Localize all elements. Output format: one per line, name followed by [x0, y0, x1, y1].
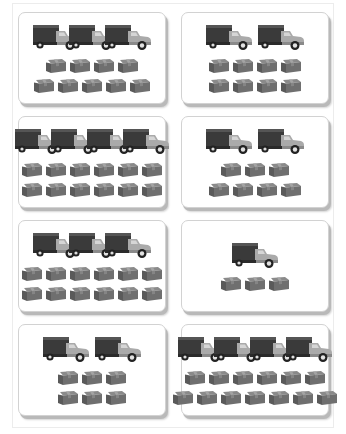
box-row: [207, 77, 303, 94]
box-icon: [232, 369, 254, 386]
box-icon: [232, 77, 254, 94]
box-icon: [105, 389, 127, 406]
box-icon: [81, 389, 103, 406]
box-icon: [45, 181, 67, 198]
box-icon: [184, 369, 206, 386]
card-3: [18, 116, 166, 208]
box-row: [171, 389, 339, 406]
box-icon: [208, 369, 230, 386]
box-icon: [117, 285, 139, 302]
card-5: [18, 220, 166, 312]
truck-group: [205, 127, 305, 155]
box-icon: [129, 77, 151, 94]
truck-group: [32, 23, 152, 51]
box-icon: [208, 181, 230, 198]
box-row: [207, 181, 303, 198]
card-2: [181, 12, 329, 104]
truck-icon: [205, 23, 253, 51]
box-icon: [232, 181, 254, 198]
box-icon: [117, 265, 139, 282]
box-icon: [69, 57, 91, 74]
truck-icon: [104, 23, 152, 51]
box-row: [44, 57, 140, 74]
box-icon: [57, 369, 79, 386]
card-8: [181, 324, 329, 416]
box-group: [20, 265, 164, 302]
box-row: [32, 77, 152, 94]
card-4: [181, 116, 329, 208]
box-row: [219, 161, 291, 178]
box-row: [20, 285, 164, 302]
box-icon: [45, 285, 67, 302]
truck-icon: [42, 335, 90, 363]
box-icon: [280, 181, 302, 198]
box-group: [20, 161, 164, 198]
box-icon: [304, 369, 326, 386]
truck-icon: [94, 335, 142, 363]
box-icon: [69, 161, 91, 178]
box-icon: [208, 77, 230, 94]
box-icon: [141, 181, 163, 198]
box-icon: [244, 275, 266, 292]
box-icon: [141, 285, 163, 302]
box-icon: [196, 389, 218, 406]
box-icon: [21, 161, 43, 178]
box-icon: [232, 57, 254, 74]
card-6: [181, 220, 329, 312]
box-icon: [21, 265, 43, 282]
box-icon: [256, 77, 278, 94]
box-icon: [93, 285, 115, 302]
box-icon: [220, 389, 242, 406]
box-group: [207, 161, 303, 198]
box-icon: [280, 57, 302, 74]
box-row: [183, 369, 327, 386]
box-icon: [220, 161, 242, 178]
box-icon: [33, 77, 55, 94]
box-icon: [316, 389, 338, 406]
box-icon: [117, 161, 139, 178]
card-1: [18, 12, 166, 104]
truck-group: [14, 127, 170, 155]
box-row: [20, 181, 164, 198]
box-icon: [220, 275, 242, 292]
box-icon: [93, 161, 115, 178]
box-icon: [141, 161, 163, 178]
truck-icon: [257, 23, 305, 51]
box-icon: [105, 369, 127, 386]
box-icon: [117, 181, 139, 198]
truck-group: [205, 23, 305, 51]
box-group: [56, 369, 128, 406]
box-icon: [57, 389, 79, 406]
box-icon: [141, 265, 163, 282]
box-icon: [280, 369, 302, 386]
box-icon: [256, 369, 278, 386]
box-icon: [93, 57, 115, 74]
box-icon: [93, 181, 115, 198]
box-icon: [256, 57, 278, 74]
box-icon: [268, 161, 290, 178]
box-icon: [172, 389, 194, 406]
box-row: [56, 369, 128, 386]
box-icon: [268, 389, 290, 406]
box-row: [20, 265, 164, 282]
box-icon: [280, 77, 302, 94]
box-icon: [105, 77, 127, 94]
box-icon: [93, 265, 115, 282]
box-icon: [45, 161, 67, 178]
box-icon: [117, 57, 139, 74]
box-icon: [244, 161, 266, 178]
box-row: [219, 275, 291, 292]
box-row: [56, 389, 128, 406]
box-icon: [244, 389, 266, 406]
box-icon: [256, 181, 278, 198]
box-icon: [21, 285, 43, 302]
truck-group: [177, 335, 333, 363]
box-icon: [45, 265, 67, 282]
box-row: [20, 161, 164, 178]
box-icon: [69, 265, 91, 282]
box-icon: [21, 181, 43, 198]
box-group: [207, 57, 303, 94]
card-7: [18, 324, 166, 416]
box-icon: [45, 57, 67, 74]
truck-group: [42, 335, 142, 363]
